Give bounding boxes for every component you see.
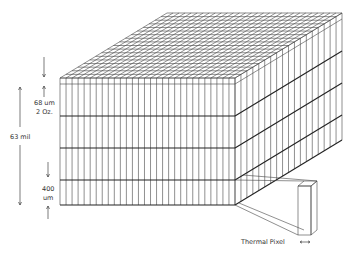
thermal-pixel-callout: Thermal Pixel	[240, 238, 310, 246]
dielectric-unit-label: um	[43, 194, 53, 202]
dimension-400um: 400 um	[42, 162, 54, 219]
grid-line	[235, 205, 298, 235]
copper-thickness-label: 68 um	[34, 99, 55, 107]
grid-line	[235, 180, 304, 181]
pcb-thermal-pixel-diagram: 68 um 2 Oz. 63 mil 400 um Thermal Pixel	[0, 0, 358, 261]
dimension-63mil: 63 mil	[10, 87, 30, 205]
thermal-pixel-prism	[235, 175, 317, 235]
pixel-front-face	[298, 186, 311, 235]
pixel-top-face	[298, 181, 317, 186]
total-thickness-label: 63 mil	[10, 133, 30, 141]
dimension-68um: 68 um 2 Oz.	[34, 57, 55, 116]
copper-weight-label: 2 Oz.	[36, 108, 53, 116]
layer-stack-box	[60, 13, 342, 205]
dielectric-thickness-label: 400	[42, 185, 54, 193]
grid-line	[239, 203, 304, 230]
pixel-side-face	[311, 181, 317, 235]
thermal-pixel-label: Thermal Pixel	[240, 238, 285, 246]
